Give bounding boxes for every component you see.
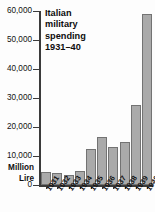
x-axis-label-group: 1931193219331934193519361937193819391940 xyxy=(41,186,153,212)
y-axis-tick-label: 50,000 xyxy=(0,36,32,45)
y-axis-unit-line-1: Million xyxy=(0,163,34,174)
bar-1939 xyxy=(131,105,141,185)
y-axis-tick-label: 60,000 xyxy=(0,7,32,16)
y-axis-tick-label-text: 40,000 xyxy=(0,65,32,73)
bar-chart: 010,00020,00030,00040,00050,00060,000 Mi… xyxy=(0,0,155,212)
y-axis-tick-label-text: 30,000 xyxy=(0,94,32,102)
bar-1940 xyxy=(142,14,152,185)
y-axis-tick-label: 40,000 xyxy=(0,65,32,74)
y-axis-tick-label: 30,000 xyxy=(0,94,32,103)
y-axis-tick-label-text: 10,000 xyxy=(0,152,32,160)
y-axis-tick-label: 20,000 xyxy=(0,123,32,132)
y-axis-unit-line-2: Lire xyxy=(0,174,34,185)
y-axis-tick-label-text: 60,000 xyxy=(0,7,32,15)
y-axis-tick-label-text: 50,000 xyxy=(0,36,32,44)
y-axis-tick-label-text: 20,000 xyxy=(0,123,32,131)
plot-area xyxy=(41,11,153,185)
y-axis-unit-label: Million Lire xyxy=(0,163,34,184)
y-axis-tick-label: 10,000 xyxy=(0,152,32,161)
